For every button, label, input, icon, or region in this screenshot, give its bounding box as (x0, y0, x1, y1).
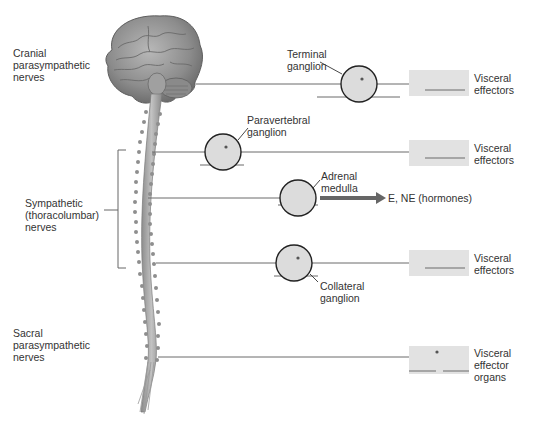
hormones-label: E, NE (hormones) (388, 192, 472, 204)
brain-illustration (106, 16, 203, 103)
sacral-label: Sacral parasympathetic nerves (13, 327, 90, 363)
adrenal-medulla (280, 180, 316, 216)
terminal-ganglion (341, 66, 377, 102)
sacral-pathway (158, 346, 469, 374)
sympathetic-bracket (104, 150, 126, 268)
terminal-ganglion-label: Terminal ganglion (287, 48, 327, 72)
paravertebral-ganglion-label: Paravertebral ganglion (247, 114, 310, 138)
visceral-effectors-label-3: Visceral effectors (474, 252, 514, 276)
hormone-arrow-head (376, 192, 386, 204)
visceral-effectors-label-1: Visceral effectors (474, 72, 514, 96)
paravertebral-pathway (152, 128, 469, 170)
collateral-ganglion (276, 245, 312, 281)
visceral-effector-box-4 (409, 346, 469, 374)
visceral-effector-organs-label: Visceral effector organs (474, 347, 511, 383)
adrenal-medulla-label: Adrenal medulla (321, 170, 358, 194)
visceral-effector-box-2 (409, 140, 469, 166)
visceral-effectors-label-2: Visceral effectors (474, 142, 514, 166)
spinal-cord-illustration (133, 94, 162, 414)
sympathetic-label: Sympathetic (thoracolumbar) nerves (25, 197, 99, 233)
collateral-pathway (156, 245, 469, 282)
visceral-effector-box-3 (409, 250, 469, 276)
visceral-effector-box-1 (409, 70, 469, 96)
paravertebral-ganglion (205, 134, 241, 170)
hormone-arrow-shaft (320, 196, 376, 200)
cranial-pathway (196, 62, 469, 102)
collateral-ganglion-label: Collateral ganglion (320, 280, 364, 304)
cranial-label: Cranial parasympathetic nerves (13, 47, 90, 83)
